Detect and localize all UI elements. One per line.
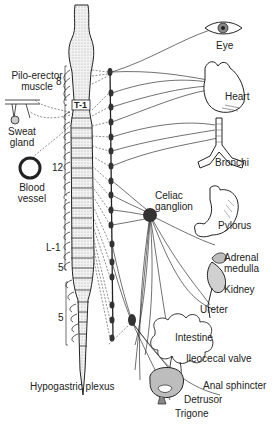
segment-label-thoracic: 12 bbox=[52, 162, 63, 173]
label-trigone: Trigone bbox=[175, 408, 209, 419]
label-adrenal-line1: Adrenal bbox=[224, 252, 259, 263]
segment-label-lumbar: 5 bbox=[58, 262, 64, 273]
segment-label-l1: L-1 bbox=[46, 242, 60, 253]
label-ureter: Ureter bbox=[200, 304, 228, 315]
segment-label-cervical: 8 bbox=[56, 76, 62, 87]
hypogastric-plexus bbox=[128, 314, 136, 326]
label-celiac-line2: ganglion bbox=[155, 201, 193, 212]
spinal-cord bbox=[69, 5, 94, 395]
blood-vessel-organ bbox=[20, 158, 40, 178]
label-ileocecal-valve: Ileocecal valve bbox=[186, 353, 252, 364]
label-heart: Heart bbox=[225, 91, 249, 102]
label-blood-line1: Blood bbox=[12, 182, 52, 193]
label-anal-sphincter: Anal sphincter bbox=[203, 380, 266, 391]
label-celiac-ganglion: Celiac ganglion bbox=[155, 190, 193, 212]
label-sweat-gland: Sweat gland bbox=[2, 126, 42, 148]
bladder-organ bbox=[150, 368, 184, 405]
label-detrusor: Detrusor bbox=[184, 394, 222, 405]
segment-brackets bbox=[65, 66, 68, 345]
label-bronchi: Bronchi bbox=[215, 157, 249, 168]
skin-organ bbox=[5, 100, 40, 124]
segment-label-sacral: 5 bbox=[58, 312, 64, 323]
sympathetic-chain bbox=[108, 68, 115, 342]
label-sweat-line2: gland bbox=[2, 137, 42, 148]
preganglionic-fibers bbox=[30, 70, 110, 338]
heart-organ bbox=[204, 62, 244, 113]
label-pylorus: Pylorus bbox=[218, 220, 251, 231]
eye-organ bbox=[205, 22, 242, 34]
segment-label-t1: T-1 bbox=[74, 100, 87, 111]
label-hypogastric-plexus: Hypogastric plexus bbox=[30, 381, 114, 392]
label-celiac-line1: Celiac bbox=[155, 190, 193, 201]
label-adrenal-line2: medulla bbox=[224, 263, 259, 274]
label-blood-vessel: Blood vessel bbox=[12, 182, 52, 204]
label-adrenal-medulla: Adrenal medulla bbox=[224, 252, 259, 274]
label-intestine: Intestine bbox=[175, 332, 213, 343]
label-blood-line2: vessel bbox=[12, 193, 52, 204]
label-eye: Eye bbox=[216, 40, 233, 51]
label-sweat-line1: Sweat bbox=[2, 126, 42, 137]
label-kidney: Kidney bbox=[224, 284, 255, 295]
